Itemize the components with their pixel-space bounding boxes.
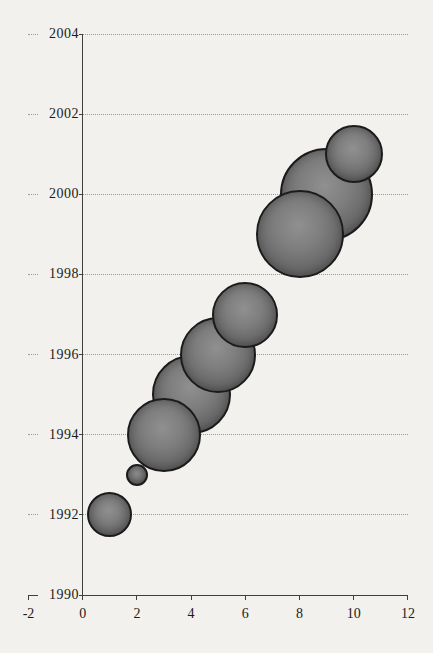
y-tick-label-2000: 2000 xyxy=(38,186,79,202)
y-tick-label-1996: 1996 xyxy=(38,347,79,363)
gridline-2004 xyxy=(28,34,408,35)
bubble-x2-y1993 xyxy=(126,464,148,486)
bubble-x1-y1992 xyxy=(87,492,132,537)
x-tick-label-8: 8 xyxy=(285,606,315,622)
y-tick-label-1994: 1994 xyxy=(38,427,79,443)
bubble-x6-y1997 xyxy=(212,282,278,348)
bubble-x3-y1994 xyxy=(127,398,201,472)
x-tick-12 xyxy=(407,595,408,600)
x-tick-label-10: 10 xyxy=(339,606,369,622)
gridline-2002 xyxy=(28,114,408,115)
x-tick-10 xyxy=(353,595,354,600)
y-tick-label-2004: 2004 xyxy=(38,26,79,42)
gridline-1994 xyxy=(28,434,408,435)
y-axis-line xyxy=(82,34,83,600)
x-tick--2 xyxy=(28,595,29,600)
y-tick-label-1990: 1990 xyxy=(38,587,79,603)
y-tick-label-1992: 1992 xyxy=(38,507,79,523)
gridline-1992 xyxy=(28,514,408,515)
x-tick-label-6: 6 xyxy=(230,606,260,622)
x-tick-label-2: 2 xyxy=(122,606,152,622)
x-axis-line xyxy=(28,595,408,596)
bubble-x8-y1999 xyxy=(256,190,344,278)
x-tick-label--2: -2 xyxy=(14,606,44,622)
x-tick-0 xyxy=(82,595,83,600)
x-tick-label-12: 12 xyxy=(393,606,423,622)
bubble-x10-y2001 xyxy=(325,125,383,183)
x-tick-label-4: 4 xyxy=(176,606,206,622)
x-tick-2 xyxy=(136,595,137,600)
x-tick-8 xyxy=(299,595,300,600)
x-tick-label-0: 0 xyxy=(68,606,98,622)
bubble-chart: -202468101219901992199419961998200020022… xyxy=(0,0,433,653)
y-tick-label-1998: 1998 xyxy=(38,266,79,282)
x-tick-4 xyxy=(191,595,192,600)
gridline-1998 xyxy=(28,274,408,275)
y-tick-label-2002: 2002 xyxy=(38,106,79,122)
x-tick-6 xyxy=(245,595,246,600)
